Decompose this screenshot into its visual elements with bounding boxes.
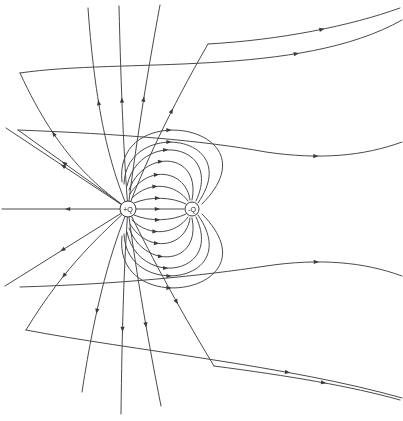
field-line [132,217,188,232]
field-line [18,130,128,209]
field-line [119,6,128,209]
field-lines-group [2,5,402,414]
field-arrowhead [152,184,157,189]
field-arrowhead [59,247,66,253]
field-line [128,5,160,209]
field-arrowhead [314,260,319,264]
field-line [129,218,193,257]
field-line [26,209,128,330]
field-line [20,73,128,209]
field-line [214,366,400,400]
field-line-canvas: +Q-Q [0,0,403,421]
field-arrowhead [166,286,171,290]
field-line [5,209,128,286]
field-line [128,44,208,209]
field-arrowhead [152,229,157,234]
charge-negative: -Q [185,202,199,216]
charge-label-negative: -Q [188,206,196,214]
field-arrowhead [313,154,318,158]
field-line [82,209,128,392]
field-line [134,214,186,220]
dipole-field-figure: +Q-Q [0,0,403,421]
field-line [6,128,128,209]
charge-positive: +Q [120,201,136,217]
charge-label-positive: +Q [123,206,133,214]
field-line [130,174,190,200]
field-arrowhead [158,254,164,259]
field-arrowhead [166,128,171,132]
field-arrowhead [154,172,160,177]
field-line [20,20,402,73]
field-arrowhead [154,241,160,246]
field-line [20,262,402,287]
field-arrowhead [169,108,175,115]
field-line [18,130,402,156]
field-arrowhead [321,380,327,385]
field-line [122,214,223,288]
field-arrowhead [155,218,160,222]
field-arrowhead [65,207,70,211]
field-arrowhead [155,207,160,211]
field-arrowhead [120,97,124,102]
field-arrowhead [120,327,124,332]
field-arrowhead [163,148,168,152]
field-line [208,8,400,44]
field-line [132,186,188,201]
field-arrowhead [166,140,171,144]
field-line [134,198,186,204]
field-arrowhead [174,299,180,306]
field-arrowhead [158,159,164,164]
field-arrowhead [163,266,168,270]
field-line [122,130,223,204]
field-arrowhead [155,196,160,200]
